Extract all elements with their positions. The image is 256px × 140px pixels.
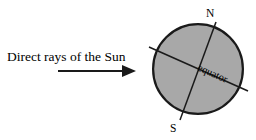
diagram-canvas: Direct rays of the Sun N S equator	[0, 0, 256, 140]
sun-rays-label: Direct rays of the Sun	[7, 49, 126, 64]
south-pole-label: S	[170, 122, 176, 134]
north-pole-label: N	[206, 7, 215, 19]
earth-sun-rays-diagram: Direct rays of the Sun N S equator	[0, 0, 256, 140]
sun-ray-arrow-head	[122, 65, 136, 77]
